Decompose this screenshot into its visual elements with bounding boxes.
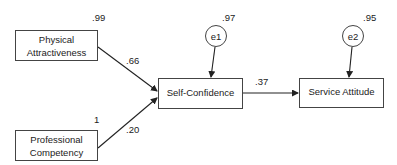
arrow-pa-to-sc	[98, 47, 157, 91]
error-e2: e2	[342, 25, 364, 47]
arrow-pc-to-sc	[98, 98, 157, 148]
node-label-line2: Competency	[30, 146, 83, 159]
arrow-e2-to-sa	[349, 47, 352, 77]
coef-pc-sc: .20	[126, 124, 139, 135]
r2-service-attitude: .95	[363, 12, 376, 23]
node-service-attitude: Service Attitude	[299, 78, 384, 108]
node-label-line1: Physical	[27, 33, 87, 46]
r2-self-confidence: .97	[222, 12, 235, 23]
coef-sc-sa: .37	[255, 76, 268, 87]
error-label: e2	[348, 31, 359, 42]
coef-pa-sc: .66	[126, 55, 139, 66]
arrow-e1-to-sc	[211, 47, 215, 77]
node-label-line2: Attractiveness	[27, 46, 87, 59]
node-professional-competency: Professional Competency	[15, 130, 98, 161]
node-physical-attractiveness: Physical Attractiveness	[15, 30, 98, 61]
node-label: Self-Confidence	[167, 86, 235, 99]
variance-professional-competency: 1	[94, 114, 99, 125]
node-label-line1: Professional	[30, 133, 83, 146]
variance-physical-attractiveness: .99	[92, 12, 105, 23]
error-e1: e1	[205, 25, 227, 47]
node-label: Service Attitude	[308, 85, 374, 98]
error-label: e1	[211, 31, 222, 42]
node-self-confidence: Self-Confidence	[158, 78, 243, 109]
